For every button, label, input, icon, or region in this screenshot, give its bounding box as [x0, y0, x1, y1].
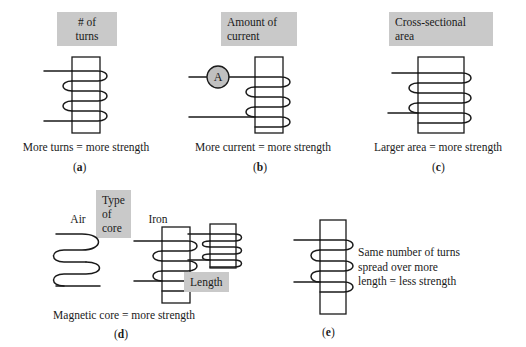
- figure-canvas: # of turns: [0, 0, 526, 347]
- panel-d-letter: (d): [114, 327, 128, 341]
- panel-b-letter-close: ): [263, 161, 267, 173]
- panel-b-highlight-label: Amount of current: [221, 12, 297, 46]
- panel-c-letter: (c): [432, 160, 445, 174]
- panel-a-caption: More turns = more strength: [0, 140, 172, 154]
- panel-d-letter-close: ): [124, 328, 128, 340]
- panel-a-highlight-label: # of turns: [57, 12, 117, 46]
- panel-a-letter: (a): [73, 160, 86, 174]
- panel-c-coil-diagram: [380, 55, 500, 135]
- ammeter-symbol-text: A: [214, 70, 223, 84]
- panel-d-caption: Magnetic core = more strength: [14, 308, 234, 322]
- panel-c-letter-close: ): [441, 161, 445, 173]
- panel-e-caption: Same number of turns spread over more le…: [358, 245, 526, 289]
- panel-d-sublabel-iron: Iron: [135, 212, 181, 226]
- panel-b-caption: More current = more strength: [172, 140, 354, 154]
- panel-d-air-coil-diagram: [52, 228, 122, 300]
- panel-c-highlight-label: Cross-sectional area: [389, 12, 493, 46]
- panel-e-letter-close: ): [331, 326, 335, 338]
- panel-d-sublabel-air: Air: [55, 212, 101, 226]
- panel-e-letter: (e): [322, 325, 335, 339]
- panel-b-coil-diagram: A: [185, 55, 310, 135]
- panel-b-letter: (b): [253, 160, 267, 174]
- panel-e-highlight-label: Length: [184, 272, 229, 292]
- panel-a-coil-diagram: [40, 55, 140, 135]
- panel-c-caption: Larger area = more strength: [350, 140, 526, 154]
- panel-a-letter-close: ): [83, 161, 87, 173]
